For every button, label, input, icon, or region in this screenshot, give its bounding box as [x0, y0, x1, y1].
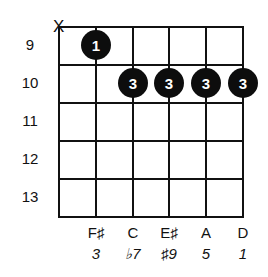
fret-line [58, 216, 244, 218]
finger-dot: 1 [81, 30, 111, 60]
interval-label: 5 [191, 245, 221, 262]
interval-label: ♯9 [154, 245, 184, 262]
interval-label: ♭7 [118, 245, 148, 263]
fret-label: 9 [15, 36, 45, 53]
string-line [58, 26, 60, 218]
fret-label: 13 [15, 188, 45, 205]
note-label: E♯ [154, 224, 184, 241]
note-label: D [228, 224, 258, 241]
interval-label: 1 [228, 245, 258, 262]
fret-label: 11 [15, 112, 45, 129]
note-label: C [118, 224, 148, 241]
string-line [242, 26, 244, 218]
fret-line [58, 140, 244, 142]
fret-line [58, 64, 244, 66]
fret-label: 10 [15, 74, 45, 91]
string-line [205, 26, 207, 218]
note-label: A [191, 224, 221, 241]
fret-line [58, 26, 244, 28]
string-line [168, 26, 170, 218]
mute-marker-icon: X [53, 18, 64, 35]
finger-dot: 3 [191, 68, 221, 98]
fret-label: 12 [15, 150, 45, 167]
finger-dot: 3 [118, 68, 148, 98]
fret-line [58, 178, 244, 180]
note-label: F♯ [81, 224, 111, 241]
finger-dot: 3 [228, 68, 258, 98]
finger-dot: 3 [154, 68, 184, 98]
interval-label: 3 [81, 245, 111, 262]
fret-line [58, 102, 244, 104]
string-line [132, 26, 134, 218]
